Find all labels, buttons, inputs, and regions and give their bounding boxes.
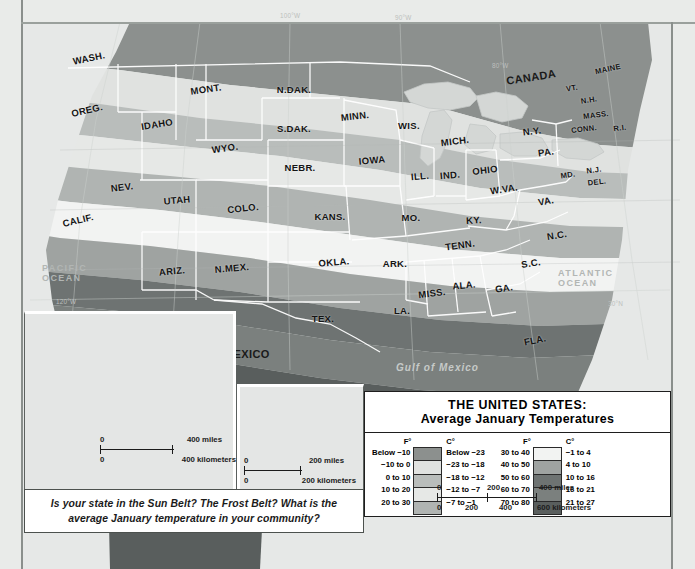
legend-left-swatch-0 bbox=[414, 448, 441, 461]
question-text: Is your state in the Sun Belt? The Frost… bbox=[35, 496, 353, 526]
frame-line-top bbox=[21, 22, 695, 24]
legend-left-c-1: −23 to −18 bbox=[442, 459, 484, 471]
main-scale-miles-0: 0 bbox=[437, 482, 441, 493]
legend-left-f-4: 20 to 30 bbox=[381, 497, 413, 509]
legend-title: THE UNITED STATES: Average January Tempe… bbox=[365, 392, 670, 433]
main-scalebar: 0 200 400 miles 0 200 400 600 kilometers bbox=[437, 482, 615, 513]
main-scale-km-0: 0 bbox=[437, 502, 441, 513]
legend-right-f-0: 30 to 40 bbox=[501, 447, 533, 459]
legend-left-f-header: F° bbox=[404, 437, 414, 447]
legend-right-c-header: C° bbox=[562, 437, 575, 447]
main-scale-km-200: 200 bbox=[465, 502, 478, 513]
map-page: PACIFIC OCEAN ATLANTIC OCEAN Gulf of Mex… bbox=[0, 0, 695, 569]
legend-left-f-1: −10 to 0 bbox=[381, 459, 413, 471]
frame-line-left bbox=[21, 0, 23, 569]
legend-left-f-0: Below −10 bbox=[372, 447, 413, 459]
legend-left-c-0: Below −23 bbox=[442, 447, 484, 459]
main-scale-miles-200: 200 bbox=[487, 482, 500, 493]
question-box: Is your state in the Sun Belt? The Frost… bbox=[24, 489, 364, 533]
frame-line-right bbox=[671, 22, 673, 569]
legend-title-line2: Average January Temperatures bbox=[369, 412, 666, 427]
legend-right-swatch-1 bbox=[534, 461, 561, 474]
main-scale-km-400: 400 bbox=[499, 502, 512, 513]
legend-left-c-header: C° bbox=[442, 437, 455, 447]
legend-title-line1: THE UNITED STATES: bbox=[369, 398, 666, 412]
legend-right-c-0: −1 to 4 bbox=[562, 447, 591, 459]
legend-left-f-3: 10 to 20 bbox=[381, 484, 413, 496]
legend-left-swatch-1 bbox=[414, 461, 441, 474]
legend-left-f-labels: F° Below −10 −10 to 0 0 to 10 10 to 20 2… bbox=[372, 437, 413, 515]
map-legend: THE UNITED STATES: Average January Tempe… bbox=[364, 391, 671, 517]
legend-right-f-1: 40 to 50 bbox=[501, 459, 533, 471]
hawaii-inset-frame bbox=[237, 384, 364, 493]
legend-right-swatch-0 bbox=[534, 448, 561, 461]
legend-right-c-1: 4 to 10 bbox=[562, 459, 591, 471]
main-scale-km-600: 600 kilometers bbox=[537, 502, 591, 513]
alaska-inset-frame bbox=[24, 311, 236, 493]
legend-left-f-2: 0 to 10 bbox=[386, 472, 414, 484]
main-scale-miles-400: 400 miles bbox=[539, 482, 574, 493]
legend-right-f-header: F° bbox=[523, 437, 533, 447]
